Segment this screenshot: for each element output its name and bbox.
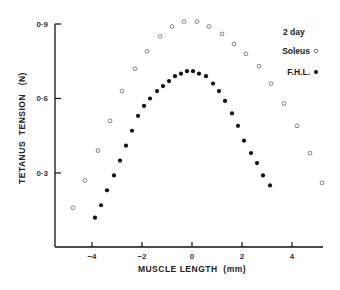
fhl-data-point [105,188,109,192]
fhl-data-point [124,144,128,148]
soleus-data-point [282,102,286,106]
series-fhl [93,69,272,220]
x-tick-label: 2 [240,252,245,261]
x-tick-label: 4 [290,252,295,261]
legend-marker-open-circle-icon [314,49,318,53]
fhl-data-point [155,89,159,93]
y-tick-label: 0·3 [36,169,48,178]
soleus-data-point [269,82,273,86]
soleus-data-point [244,52,248,56]
fhl-data-point [223,99,227,103]
fhl-data-point [130,129,134,133]
fhl-data-point [261,173,265,177]
y-axis-label: TETANUS TENSION (N) [17,72,27,184]
y-tick-label: 0·6 [36,94,48,103]
fhl-data-point [173,74,177,78]
soleus-data-point [232,42,236,46]
fhl-data-point [93,216,97,220]
soleus-data-point [108,119,112,123]
fhl-data-point [242,139,246,143]
soleus-data-point [182,20,186,24]
soleus-data-point [195,20,199,24]
fhl-data-point [204,74,208,78]
tension-length-chart: 0·30·60·9 −4−2024 MUSCLE LENGTH (mm) TET… [0,0,340,290]
y-tick-label: 0·9 [36,20,48,29]
soleus-data-point [158,35,162,39]
fhl-data-point [217,89,221,93]
soleus-data-point [308,151,312,155]
fhl-data-point [211,81,215,85]
fhl-data-point [112,173,116,177]
legend-label-fhl: F.H.L. [287,67,310,77]
fhl-data-point [249,151,253,155]
fhl-data-point [236,124,240,128]
fhl-data-point [118,158,122,162]
fhl-data-point [268,183,272,187]
legend-title: 2 day [283,27,305,37]
legend-marker-filled-circle-icon [314,70,318,74]
fhl-data-point [230,111,234,115]
fhl-data-point [191,69,195,73]
soleus-data-point [96,149,100,153]
fhl-data-point [255,161,259,165]
soleus-data-point [220,32,224,36]
fhl-data-point [197,72,201,76]
fhl-data-point [99,203,103,207]
soleus-data-point [71,206,75,210]
x-axis-label: MUSCLE LENGTH (mm) [138,264,246,274]
fhl-data-point [148,96,152,100]
soleus-data-point [145,49,149,53]
x-ticks: −4−2024 [87,242,294,261]
soleus-data-point [170,25,174,29]
soleus-data-point [257,64,261,68]
soleus-data-point [295,124,299,128]
x-tick-label: 0 [190,252,195,261]
fhl-data-point [161,84,165,88]
soleus-data-point [83,179,87,183]
fhl-data-point [142,104,146,108]
soleus-data-point [133,67,137,71]
y-ticks: 0·30·60·9 [36,20,61,178]
fhl-data-point [167,79,171,83]
fhl-data-point [136,114,140,118]
legend-label-soleus: Soleus [282,46,310,56]
fhl-data-point [185,69,189,73]
axes [55,24,323,247]
x-tick-label: −4 [87,252,97,261]
x-tick-label: −2 [137,252,147,261]
soleus-data-point [207,25,211,29]
legend: 2 day Soleus F.H.L. [282,27,318,77]
fhl-data-point [179,72,183,76]
soleus-data-point [120,89,124,93]
soleus-data-point [320,181,324,185]
